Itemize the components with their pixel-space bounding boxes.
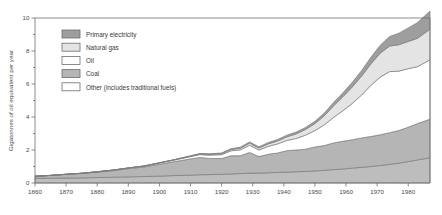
x-tick-label: 1950 xyxy=(308,188,322,195)
legend-label: Coal xyxy=(86,70,99,77)
energy-consumption-area-chart: 0246810186018701880189019001910192019301… xyxy=(0,0,442,215)
chart-canvas: 0246810186018701880189019001910192019301… xyxy=(0,0,442,215)
legend-swatch xyxy=(62,70,80,78)
y-axis-title: Gigatonnes of oil equivalent per year xyxy=(7,50,14,151)
legend-label: Primary electricity xyxy=(86,31,137,39)
legend-swatch xyxy=(62,56,80,64)
y-tick-label: 2 xyxy=(26,146,30,153)
legend-swatch xyxy=(62,43,80,51)
y-tick-label: 8 xyxy=(26,47,30,54)
y-axis-ticks: 0246810 xyxy=(23,14,35,186)
legend-label: Natural gas xyxy=(86,44,119,52)
legend-label: Other (includes traditional fuels) xyxy=(86,84,176,92)
x-tick-label: 1930 xyxy=(246,188,260,195)
y-tick-label: 10 xyxy=(23,14,30,21)
legend-swatch xyxy=(62,30,80,38)
x-tick-label: 1980 xyxy=(401,188,415,195)
y-tick-label: 0 xyxy=(26,179,30,186)
x-axis-ticks: 1860187018801890190019101920193019401950… xyxy=(28,183,416,195)
x-tick-label: 1900 xyxy=(153,188,167,195)
x-tick-label: 1910 xyxy=(184,188,198,195)
y-tick-label: 6 xyxy=(26,80,30,87)
x-tick-label: 1940 xyxy=(277,188,291,195)
legend-label: Oil xyxy=(86,57,94,64)
x-tick-label: 1860 xyxy=(28,188,42,195)
x-tick-label: 1880 xyxy=(90,188,104,195)
y-tick-label: 4 xyxy=(26,113,30,120)
legend-swatch xyxy=(62,83,80,91)
legend: Primary electricityNatural gasOilCoalOth… xyxy=(62,30,176,92)
x-tick-label: 1920 xyxy=(215,188,229,195)
x-tick-label: 1870 xyxy=(59,188,73,195)
x-tick-label: 1970 xyxy=(370,188,384,195)
x-tick-label: 1960 xyxy=(339,188,353,195)
x-tick-label: 1890 xyxy=(121,188,135,195)
